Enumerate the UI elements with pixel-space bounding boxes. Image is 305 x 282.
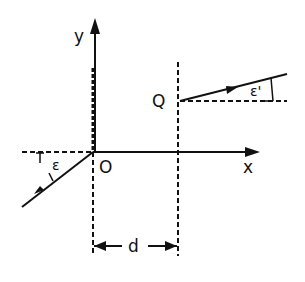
exit-ray-arrowhead — [226, 86, 238, 94]
incident-angle-arc — [36, 153, 44, 163]
exit-angle-arc — [265, 78, 273, 101]
incident-angle-tick — [49, 173, 53, 181]
incident-angle-label: ε — [52, 157, 60, 173]
y-axis-label: y — [74, 26, 84, 46]
x-axis-arrowhead — [245, 147, 260, 157]
distance-arrowhead-right — [165, 241, 177, 251]
distance-arrowhead-left — [94, 241, 106, 251]
x-axis-label: x — [243, 157, 253, 177]
origin-label: O — [99, 157, 112, 177]
distance-label: d — [128, 236, 139, 256]
exit-angle-label: ε' — [250, 83, 261, 99]
point-q-label: Q — [152, 91, 165, 111]
ray-diagram: y x O ε Q ε' d — [0, 0, 305, 282]
y-axis-arrowhead — [90, 18, 100, 34]
